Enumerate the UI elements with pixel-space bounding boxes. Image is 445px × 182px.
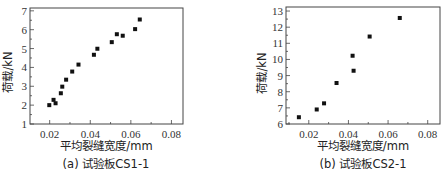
y-tick-label: 8	[278, 86, 284, 98]
data-point	[335, 81, 339, 85]
y-tick-label: 5	[22, 43, 28, 55]
x-tick-label: 0.02	[40, 128, 59, 140]
y-tick-label: 6	[22, 24, 28, 36]
data-point	[60, 85, 64, 89]
x-tick-label: 0.08	[162, 128, 182, 140]
x-axis-title: 平均裂缝宽度/mm	[317, 139, 409, 153]
y-tick-label: 7	[278, 102, 284, 114]
data-point	[110, 40, 114, 44]
data-point	[47, 103, 51, 107]
y-tick-label: 12	[272, 21, 283, 33]
data-point	[297, 115, 301, 119]
data-point	[315, 107, 319, 111]
data-point	[76, 63, 80, 67]
data-point	[54, 101, 58, 105]
y-tick-label: 2	[22, 99, 28, 111]
x-tick-label: 0.02	[299, 128, 318, 140]
data-point	[138, 18, 142, 22]
data-point	[95, 47, 99, 51]
scatter-plot-b: 0.020.040.060.08678910111213平均裂缝宽度/mm荷载/…	[222, 0, 445, 182]
data-point	[121, 34, 125, 38]
x-tick-label: 0.08	[418, 128, 438, 140]
data-point	[133, 27, 137, 31]
y-tick-label: 3	[22, 80, 28, 92]
scatter-plot-a: 0.020.040.060.081234567平均裂缝宽度/mm荷载/kN(a)…	[0, 0, 222, 182]
plot-frame	[286, 7, 440, 124]
y-axis-title: 荷载/kN	[1, 51, 15, 92]
data-point	[59, 91, 63, 95]
data-point	[64, 78, 68, 82]
figure-caption: (a) 试验板CS1-1	[63, 157, 150, 171]
chart-panel-b: 0.020.040.060.08678910111213平均裂缝宽度/mm荷载/…	[222, 0, 445, 182]
y-tick-label: 4	[22, 61, 28, 73]
data-point	[92, 53, 96, 57]
y-axis-title: 荷载/kN	[255, 52, 269, 93]
data-point	[351, 54, 355, 58]
y-tick-label: 10	[272, 53, 284, 65]
plot-frame	[30, 8, 183, 124]
x-axis-title: 平均裂缝宽度/mm	[60, 139, 152, 153]
y-tick-label: 13	[272, 5, 284, 17]
y-tick-label: 11	[272, 37, 283, 49]
chart-panel-a: 0.020.040.060.081234567平均裂缝宽度/mm荷载/kN(a)…	[0, 0, 222, 182]
y-tick-label: 1	[22, 118, 28, 130]
figure-caption: (b) 试验板CS2-1	[319, 157, 406, 171]
y-tick-label: 9	[278, 70, 284, 82]
data-point	[352, 69, 356, 73]
y-tick-label: 7	[22, 5, 28, 17]
data-point	[115, 32, 119, 36]
data-point	[368, 35, 372, 39]
data-point	[322, 101, 326, 105]
data-point	[70, 70, 74, 74]
y-tick-label: 6	[278, 118, 284, 130]
data-point	[398, 16, 402, 20]
